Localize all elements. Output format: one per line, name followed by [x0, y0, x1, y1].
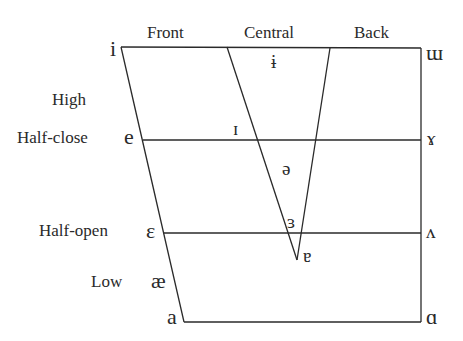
vowel-near-open-central: ɐ: [303, 246, 311, 265]
vowel-close-mid-front: e: [124, 126, 134, 148]
vowel-chart-lines: [0, 0, 463, 341]
vowel-close-back: ɯ: [426, 42, 443, 64]
vowel-near-open-front: æ: [151, 270, 166, 292]
vowel-close-mid-back: ɤ: [427, 129, 435, 148]
vowel-mid-central: ə: [282, 159, 290, 178]
central-v-right: [297, 48, 330, 260]
vowel-open-front: a: [167, 306, 177, 328]
vowel-chart: Front Central Back High Half-close Half-…: [0, 0, 463, 341]
column-label-back: Back: [354, 24, 389, 41]
top-edge: [121, 47, 421, 48]
column-label-front: Front: [147, 24, 184, 41]
vowel-open-mid-front: ɛ: [146, 220, 155, 242]
vowel-close-central: ɨ: [271, 52, 276, 71]
vowel-open-mid-central: ɜ: [287, 212, 295, 231]
row-label-high: High: [52, 91, 86, 108]
vowel-open-mid-back: ʌ: [426, 222, 436, 241]
vowel-open-back: ɑ: [426, 306, 438, 328]
row-label-low: Low: [91, 273, 122, 290]
vowel-near-close-front: ɪ: [233, 119, 238, 138]
row-label-half-open: Half-open: [39, 222, 108, 239]
vowel-close-front: i: [110, 38, 116, 60]
row-label-half-close: Half-close: [17, 129, 88, 146]
column-label-central: Central: [244, 24, 294, 41]
